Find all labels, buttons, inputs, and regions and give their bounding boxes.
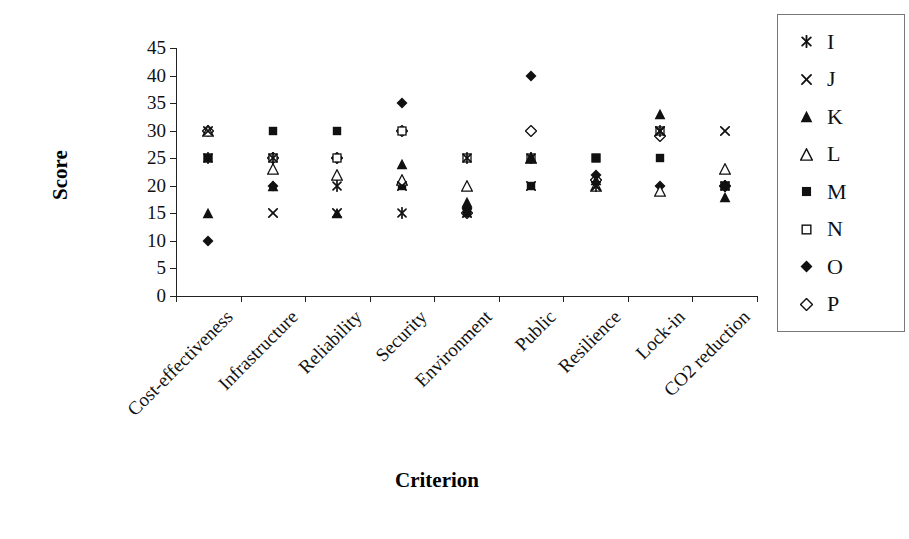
x-tick: [241, 296, 242, 302]
chart: Score 051015202530354045Cost-effectivene…: [0, 0, 909, 539]
x-axis: [176, 296, 757, 297]
y-tick-label: 30: [122, 121, 166, 140]
data-point-P: [525, 125, 537, 137]
data-point-K: [267, 180, 279, 192]
legend: IJKLMNOP: [777, 14, 905, 332]
data-point-J: [461, 207, 473, 219]
legend-item-N: N: [778, 218, 904, 240]
triangle-filled-icon: [800, 110, 813, 123]
y-tick: [170, 186, 176, 187]
data-point-J: [331, 207, 343, 219]
data-point-M: [654, 152, 666, 164]
triangle-open-icon: [461, 180, 473, 192]
legend-label: L: [827, 143, 840, 165]
asterisk-icon: [396, 207, 408, 219]
y-tick-label: 45: [122, 38, 166, 57]
y-tick-label: 5: [122, 258, 166, 277]
legend-label: I: [827, 31, 834, 53]
data-point-I: [525, 152, 537, 164]
y-tick-label: 20: [122, 176, 166, 195]
x-category-label: Reliability: [294, 306, 366, 378]
x-icon: [202, 125, 214, 137]
x-tick: [757, 296, 758, 302]
y-tick: [170, 241, 176, 242]
legend-item-I: I: [778, 31, 904, 53]
diamond-filled-icon: [525, 70, 537, 82]
x-category-label: Security: [371, 306, 431, 366]
data-point-M: [331, 125, 343, 137]
x-icon: [396, 180, 408, 192]
y-tick: [170, 76, 176, 77]
y-tick-label: 40: [122, 66, 166, 85]
x-tick: [434, 296, 435, 302]
x-tick: [692, 296, 693, 302]
triangle-filled-icon: [202, 207, 214, 219]
legend-label: M: [827, 181, 847, 203]
data-point-J: [396, 180, 408, 192]
square-open-icon: [800, 223, 813, 236]
asterisk-icon: [525, 152, 537, 164]
x-tick: [176, 296, 177, 302]
x-category-label: Lock-in: [631, 306, 689, 364]
data-point-L: [267, 163, 279, 175]
data-point-J: [525, 180, 537, 192]
triangle-filled-icon: [719, 191, 731, 203]
x-icon: [525, 180, 537, 192]
y-tick-label: 10: [122, 231, 166, 250]
data-point-I: [202, 152, 214, 164]
legend-label: N: [827, 218, 843, 240]
square-filled-icon: [331, 125, 343, 137]
data-point-L: [461, 180, 473, 192]
legend-item-J: J: [778, 68, 904, 90]
asterisk-icon: [800, 35, 813, 48]
y-tick: [170, 48, 176, 49]
data-point-I: [590, 180, 602, 192]
data-point-K: [396, 158, 408, 170]
asterisk-icon: [654, 125, 666, 137]
data-point-O: [525, 70, 537, 82]
y-tick-label: 25: [122, 148, 166, 167]
y-axis: [176, 48, 177, 297]
x-tick: [563, 296, 564, 302]
asterisk-icon: [719, 180, 731, 192]
x-tick: [628, 296, 629, 302]
legend-item-O: O: [778, 256, 904, 278]
data-point-K: [202, 207, 214, 219]
data-point-K: [654, 108, 666, 120]
data-point-I: [461, 152, 473, 164]
square-filled-icon: [800, 185, 813, 198]
x-icon: [461, 207, 473, 219]
y-tick: [170, 268, 176, 269]
data-point-I: [331, 180, 343, 192]
square-filled-icon: [267, 125, 279, 137]
data-point-K: [719, 191, 731, 203]
legend-item-K: K: [778, 106, 904, 128]
data-point-I: [719, 180, 731, 192]
data-point-J: [202, 125, 214, 137]
data-point-N: [396, 125, 408, 137]
diamond-open-icon: [525, 125, 537, 137]
x-tick: [499, 296, 500, 302]
triangle-open-icon: [267, 163, 279, 175]
legend-label: O: [827, 256, 843, 278]
triangle-open-icon: [654, 185, 666, 197]
triangle-open-icon: [800, 148, 813, 161]
data-point-M: [590, 152, 602, 164]
x-icon: [800, 73, 813, 86]
square-filled-icon: [654, 152, 666, 164]
square-open-icon: [331, 152, 343, 164]
square-filled-icon: [590, 152, 602, 164]
diamond-filled-icon: [202, 235, 214, 247]
legend-item-L: L: [778, 143, 904, 165]
triangle-filled-icon: [267, 180, 279, 192]
asterisk-icon: [202, 152, 214, 164]
x-icon: [267, 207, 279, 219]
x-category-label: Public: [511, 306, 561, 356]
y-tick-label: 0: [122, 286, 166, 305]
x-icon: [719, 125, 731, 137]
x-category-label: Resilience: [554, 306, 626, 378]
asterisk-icon: [461, 152, 473, 164]
data-point-J: [719, 125, 731, 137]
data-point-L: [719, 163, 731, 175]
asterisk-icon: [267, 152, 279, 164]
